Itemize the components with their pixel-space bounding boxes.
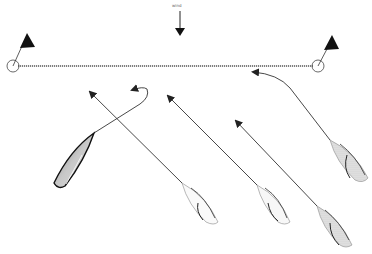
boat-e <box>253 72 368 182</box>
right-mark <box>312 35 339 72</box>
boat-b <box>90 92 218 224</box>
course-arrow-icon <box>168 96 257 185</box>
course-arrow-icon <box>236 121 317 206</box>
race-start-diagram: wind <box>0 0 372 254</box>
diagram-canvas <box>0 0 372 254</box>
flag-icon <box>20 33 35 48</box>
boat-d <box>236 121 352 247</box>
boat-c <box>168 96 290 224</box>
course-arrow-icon <box>90 92 182 183</box>
flag-icon <box>324 35 339 50</box>
course-arrow-icon <box>94 88 148 133</box>
wind-arrow-icon <box>175 11 185 36</box>
course-arrow-icon <box>253 72 330 140</box>
